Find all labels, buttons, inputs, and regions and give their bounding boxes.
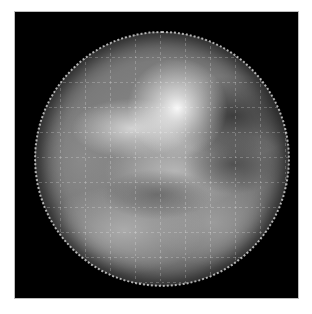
planet-disk (35, 32, 289, 286)
image-frame (15, 12, 298, 298)
planet-limb-outline (34, 31, 290, 287)
